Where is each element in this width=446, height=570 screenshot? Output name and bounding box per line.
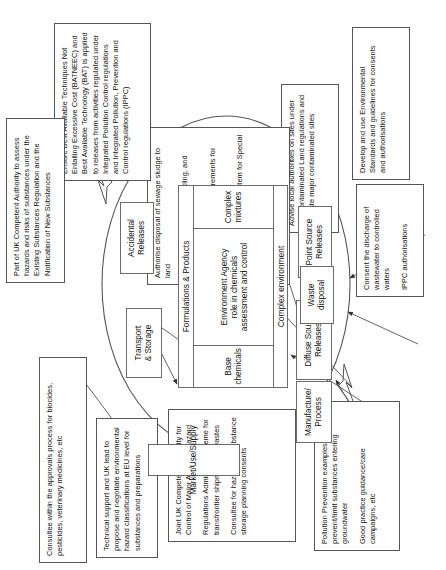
diagram-rotated-layer: Formulations & Products Base chemicals E…	[0, 0, 446, 570]
arrow-wasteregs-to-wastedisposal	[348, 312, 418, 344]
core-block: Formulations & Products Base chemicals E…	[178, 185, 288, 388]
note-pollution-prevention-p2: Good practice guidance/care campaigns, e…	[358, 408, 378, 544]
note-technical-support-p1: Technical support and UK lead to propose…	[102, 425, 143, 551]
stage-manufacture-process[interactable]: Manufacture/ Process	[296, 381, 332, 443]
note-environmental-standards[interactable]: Develop and use Environmental Standards …	[352, 27, 410, 180]
stage-accidental-releases-label: Accidental Releases	[127, 219, 146, 257]
core-bottom-band: Complex environment	[273, 185, 288, 388]
note-technical-support-classification[interactable]: Technical support and UK lead to propose…	[96, 418, 158, 558]
core-top-band: Formulations & Products	[178, 185, 194, 388]
stage-point-source-releases-label: Point Source Releases	[305, 219, 324, 266]
stage-manufacture-process-label: Manufacture/ Process	[304, 388, 323, 436]
core-cell-complex-mixtures: Complex mixtures	[194, 186, 273, 228]
note-consultee-approvals-p1: Consultee within the approvals process f…	[45, 364, 65, 556]
core-cell-base-chemicals: Base chemicals	[194, 345, 273, 387]
core-agency-line-1: Environment Agency	[219, 249, 229, 326]
stage-transport-storage[interactable]: Transport & Storage	[126, 308, 162, 378]
stage-transport-storage-label: Transport & Storage	[134, 325, 153, 361]
note-consent-discharge-p2: IPPC authorisations	[400, 191, 410, 290]
note-ukca-substances-p1: Part of UK Competent Authority to assess…	[12, 125, 53, 276]
note-bat-batneec-ippc[interactable]: Ensure Best Available Techniques Not Ent…	[54, 23, 151, 181]
stage-waste-disposal-label: Waste disposal	[307, 280, 326, 310]
note-bat-p1: Ensure Best Available Techniques Not Ent…	[60, 30, 131, 174]
core-agency-line-2: role in chemicals	[229, 256, 239, 318]
stage-accidental-releases[interactable]: Accidental Releases	[120, 202, 154, 274]
core-agency-line-3: assessment and control	[239, 243, 249, 331]
stage-market-use-supply-label: Market/Use/Supply	[189, 425, 199, 494]
stage-waste-disposal[interactable]: Waste disposal	[300, 266, 334, 324]
note-waste-regulation-p1: Authorise disposal of sewage sludge to l…	[153, 134, 173, 278]
note-environmental-standards-p1: Develop and use Environmental Standards …	[358, 34, 389, 173]
diagram-canvas: Formulations & Products Base chemicals E…	[0, 0, 446, 570]
note-consultee-approvals[interactable]: Consultee within the approvals process f…	[39, 357, 87, 563]
note-consent-discharge[interactable]: Consent the discharge of wastewater to c…	[356, 184, 424, 297]
stage-market-use-supply[interactable]: Market/Use/Supply	[148, 444, 240, 476]
core-cell-agency-role: Environment Agency role in chemicals ass…	[194, 228, 273, 345]
note-consent-discharge-p1: Consent the discharge of wastewater to c…	[362, 191, 393, 290]
core-middle-row: Base chemicals Environment Agency role i…	[194, 185, 273, 388]
note-uk-competent-authority-substances[interactable]: Part of UK Competent Authority to assess…	[6, 118, 65, 283]
